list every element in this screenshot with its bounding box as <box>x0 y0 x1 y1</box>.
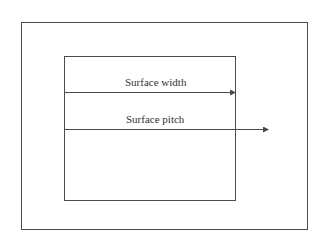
surface-width-label: Surface width <box>125 76 186 88</box>
surface-pitch-label: Surface pitch <box>126 113 184 125</box>
